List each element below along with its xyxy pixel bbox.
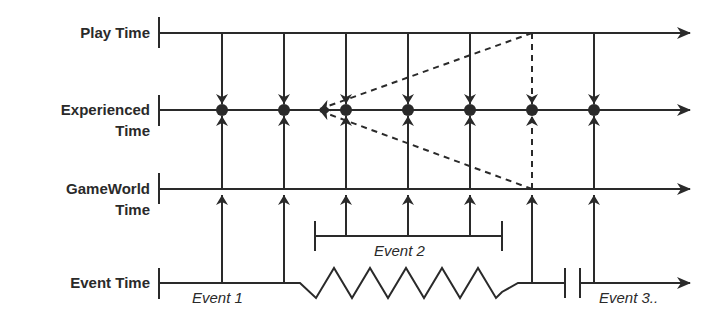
experienced-point-5 [464, 104, 476, 116]
experienced-point-1 [216, 104, 228, 116]
experienced-point-3 [340, 104, 352, 116]
event3-label: Event 3.. [599, 289, 658, 306]
experienced-point-6 [526, 104, 538, 116]
experienced-point-7 [588, 104, 600, 116]
event-time-label: Event Time [70, 272, 150, 293]
experienced-time-label-line2: Time [115, 120, 150, 141]
dashed-rewind-from-play [320, 33, 532, 109]
dashed-rewind-from-gameworld [320, 111, 532, 189]
gameworld-time-label-line1: GameWorld [66, 178, 150, 199]
experienced-point-4 [402, 104, 414, 116]
experienced-time-label-line1: Experienced [61, 99, 150, 120]
gameworld-time-label-line2: Time [115, 199, 150, 220]
play-time-label: Play Time [80, 22, 150, 43]
event2-label: Event 2 [374, 242, 425, 259]
experienced-point-2 [278, 104, 290, 116]
event1-label: Event 1 [192, 289, 243, 306]
